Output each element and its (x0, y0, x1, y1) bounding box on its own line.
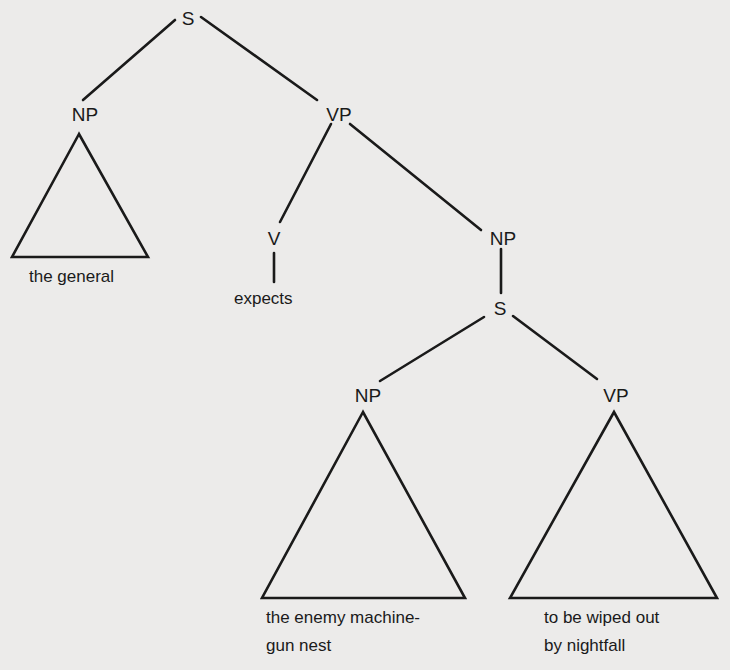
edge-vp-np (350, 124, 481, 230)
edge-s-np-embedded (380, 317, 484, 381)
node-np-object: NP (490, 229, 516, 248)
triangle-np-embedded (262, 412, 465, 598)
node-np-subject: NP (72, 105, 98, 124)
edge-s-vp-embedded (513, 316, 597, 379)
node-vp-embedded: VP (603, 386, 628, 405)
node-s-embedded: S (494, 299, 507, 318)
edge-vp-v (280, 124, 331, 222)
node-np-embedded: NP (355, 386, 381, 405)
leaf-np-embedded-line1: the enemy machine- (266, 609, 420, 626)
edge-s-vp (201, 17, 317, 100)
leaf-the-general: the general (29, 268, 114, 285)
node-v: V (268, 229, 281, 248)
leaf-vp-embedded-line1: to be wiped out (544, 609, 659, 626)
leaf-vp-embedded-line2: by nightfall (544, 637, 625, 654)
leaf-expects: expects (234, 290, 293, 307)
node-vp-main: VP (326, 105, 351, 124)
leaf-np-embedded-line2: gun nest (266, 637, 331, 654)
triangle-np-subject (12, 134, 148, 257)
triangle-vp-embedded (510, 412, 717, 598)
syntax-tree-diagram (0, 0, 730, 670)
edge-s-np (83, 20, 175, 100)
node-s-root: S (182, 9, 195, 28)
